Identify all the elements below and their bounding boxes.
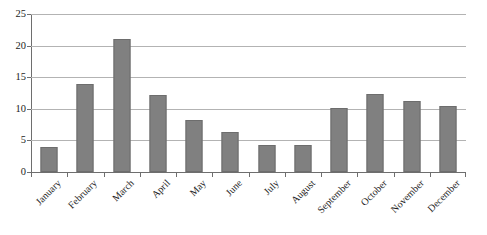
bar-slot [104,14,140,172]
y-tick-label-15: 15 [4,72,26,83]
x-tick-mark-3 [140,172,141,177]
y-tick-label-20: 20 [4,40,26,51]
x-tick-mark-1 [67,172,68,177]
bar-january [41,147,58,172]
bar-slot [285,14,321,172]
bar-october [367,94,384,172]
y-axis-labels: 0510152025 [0,0,26,235]
bar-slot [140,14,176,172]
x-tick-mark-8 [321,172,322,177]
bar-july [258,145,275,172]
bar-slot [176,14,212,172]
bar-march [113,39,130,172]
x-label-august: August [289,178,317,206]
bar-september [331,108,348,172]
x-tick-mark-2 [104,172,105,177]
x-label-march: March [110,178,136,204]
x-tick-mark-11 [430,172,431,177]
bars-layer [31,14,466,172]
bar-november [403,101,420,172]
x-label-july: July [262,178,281,197]
bar-slot [31,14,67,172]
bar-february [77,84,94,172]
bar-slot [67,14,103,172]
bar-slot [249,14,285,172]
y-tick-mark-0 [27,172,31,173]
bar-april [149,95,166,172]
x-label-september: September [316,178,353,215]
y-tick-mark-25 [27,14,31,15]
y-tick-mark-5 [27,140,31,141]
bar-may [186,120,203,172]
bar-december [439,106,456,172]
y-tick-label-10: 10 [4,104,26,115]
x-tick-mark-6 [249,172,250,177]
bar-august [294,145,311,172]
x-label-april: April [150,178,172,200]
x-tick-mark-4 [176,172,177,177]
x-label-january: January [34,178,63,207]
bar-slot [357,14,393,172]
x-tick-mark-12 [465,172,466,177]
x-tick-mark-5 [212,172,213,177]
x-label-december: December [426,178,462,214]
y-tick-mark-15 [27,77,31,78]
x-label-june: June [224,178,244,198]
y-tick-label-5: 5 [4,135,26,146]
x-label-october: October [360,178,390,208]
x-tick-mark-10 [394,172,395,177]
x-tick-mark-0 [31,172,32,177]
x-label-november: November [389,178,426,215]
x-label-february: February [67,178,100,211]
bar-slot [430,14,466,172]
x-tick-mark-7 [285,172,286,177]
x-axis-labels: JanuaryFebruaryMarchAprilMayJuneJulyAugu… [31,178,487,235]
y-tick-label-0: 0 [4,167,26,178]
bar-chart: 0510152025 JanuaryFebruaryMarchAprilMayJ… [0,0,487,235]
x-tick-mark-9 [357,172,358,177]
bar-june [222,132,239,172]
bar-slot [321,14,357,172]
bar-slot [394,14,430,172]
x-label-may: May [188,178,208,198]
y-tick-mark-10 [27,109,31,110]
y-tick-label-25: 25 [4,9,26,20]
bar-slot [212,14,248,172]
y-tick-mark-20 [27,46,31,47]
